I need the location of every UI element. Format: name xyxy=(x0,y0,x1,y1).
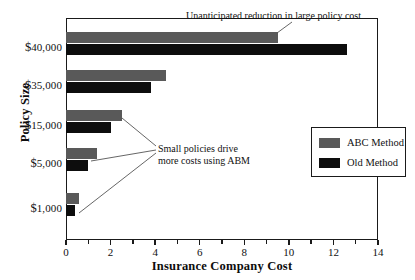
annotation-large-policy: Unanticipated reduction in large policy … xyxy=(186,10,361,22)
bar-group xyxy=(66,70,378,93)
bar-old-method xyxy=(66,160,88,171)
annotation-small-policy-line1: Small policies drive xyxy=(158,143,250,155)
x-axis-tick-minor xyxy=(266,240,267,244)
x-axis-tick-label: 14 xyxy=(373,246,384,258)
y-axis-label-amount: 5,000 xyxy=(37,157,62,169)
annotation-small-policy-line2: more costs using ABM xyxy=(158,155,250,167)
bar-abc-method xyxy=(66,193,79,204)
y-axis-label: $1,000 xyxy=(0,199,62,215)
y-axis-label-amount: 15,000 xyxy=(31,119,62,131)
x-axis-tick-label: 2 xyxy=(108,246,114,258)
x-axis-tick-minor xyxy=(177,240,178,244)
legend-item-old-method: Old Method xyxy=(319,154,405,172)
x-axis-tick-label: 10 xyxy=(283,246,294,258)
bar-old-method xyxy=(66,205,75,216)
x-axis-tick-minor xyxy=(88,240,89,244)
bar-group xyxy=(66,32,378,55)
annotation-small-policy: Small policies drive more costs using AB… xyxy=(158,143,250,167)
x-axis-tick-label: 6 xyxy=(197,246,203,258)
bar-chart: $40,000$35,000$15,000$5,000$1,000 024681… xyxy=(0,0,415,280)
x-axis-tick-label: 4 xyxy=(152,246,158,258)
y-axis-label-amount: 35,000 xyxy=(31,79,62,91)
bar-old-method xyxy=(66,44,347,55)
x-axis-tick-major xyxy=(110,240,111,245)
y-axis-label: $40,000 xyxy=(0,38,62,54)
bar-abc-method xyxy=(66,32,278,43)
legend-label-abc-method: ABC Method xyxy=(347,138,404,149)
x-axis-tick-major xyxy=(154,240,155,245)
legend-label-old-method: Old Method xyxy=(347,158,398,169)
x-axis-tick-minor xyxy=(221,240,222,244)
y-axis-label-amount: 40,000 xyxy=(31,41,62,53)
x-axis-tick-major xyxy=(65,240,66,245)
legend-item-abc-method: ABC Method xyxy=(319,134,405,152)
x-axis-tick-major xyxy=(288,240,289,245)
bar-abc-method xyxy=(66,110,122,121)
x-axis-tick-labels: 02468101214 xyxy=(66,246,378,260)
legend: ABC Method Old Method xyxy=(311,127,406,177)
bar-group xyxy=(66,193,378,216)
bar-old-method xyxy=(66,82,151,93)
x-axis-tick-label: 0 xyxy=(63,246,69,258)
x-axis-tick-major xyxy=(244,240,245,245)
x-axis-tick-minor xyxy=(132,240,133,244)
legend-swatch-old-method xyxy=(319,158,340,168)
y-axis-label-amount: 1,000 xyxy=(37,202,62,214)
bar-abc-method xyxy=(66,70,166,81)
x-axis-title: Insurance Company Cost xyxy=(66,259,378,274)
y-axis-title: Policy Size xyxy=(18,58,33,168)
x-axis-tick-major xyxy=(333,240,334,245)
x-axis-tick-label: 12 xyxy=(328,246,339,258)
x-axis-tick-major xyxy=(199,240,200,245)
x-axis-tick-minor xyxy=(355,240,356,244)
x-axis-tick-minor xyxy=(310,240,311,244)
bar-abc-method xyxy=(66,148,97,159)
x-axis-tick-major xyxy=(377,240,378,245)
bar-old-method xyxy=(66,122,111,133)
legend-swatch-abc-method xyxy=(319,138,340,148)
x-axis-tick-label: 8 xyxy=(242,246,248,258)
